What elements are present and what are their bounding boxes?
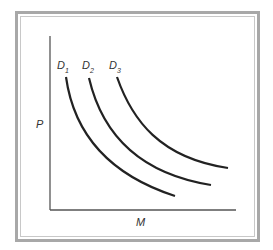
label-d1: D1	[57, 59, 69, 74]
label-d3: D3	[109, 59, 121, 74]
y-axis-label: P	[36, 118, 44, 130]
label-d2: D2	[82, 59, 94, 74]
curve-d1	[66, 77, 175, 196]
x-axis-label: M	[136, 216, 146, 228]
demand-curves-diagram: D1 D2 D3 P M	[0, 0, 273, 250]
